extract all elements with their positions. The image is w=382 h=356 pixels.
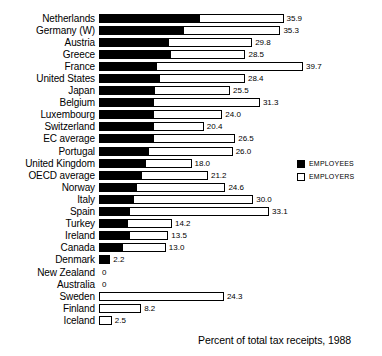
bar-segment-employees [99,243,122,252]
category-label: Finland [0,303,99,314]
bar-segment-employers [168,38,252,47]
bar-value-label: 13.0 [169,243,185,252]
chart-row: France39.7 [0,60,382,72]
chart-row: EC average26.5 [0,133,382,145]
chart-row: Portugal26.0 [0,145,382,157]
bar-area: 35.3 [99,24,382,36]
stacked-bar [99,219,172,228]
chart-row: Sweden24.3 [0,290,382,302]
category-label: Japan [0,85,99,96]
stacked-bar [99,292,224,301]
bar-area: 2.5 [99,314,382,326]
category-label: Australia [0,279,99,290]
bar-value-label: 28.4 [248,74,264,83]
bar-segment-employees [99,207,129,216]
stacked-bar [99,110,222,119]
bar-value-label: 20.4 [207,122,223,131]
chart-row: New Zealand0 [0,266,382,278]
bar-segment-employees [99,26,183,35]
bar-area: 25.5 [99,85,382,97]
stacked-bar [99,122,204,131]
bar-value-label: 39.7 [306,62,322,71]
category-label: Norway [0,182,99,193]
chart-row: Canada13.0 [0,242,382,254]
bar-value-label: 29.8 [255,38,271,47]
bar-segment-employees [99,74,159,83]
bar-segment-employers [99,304,141,313]
bar-value-label: 35.3 [283,26,299,35]
bar-segment-employees [99,86,154,95]
bar-value-label: 24.3 [227,292,243,301]
bar-area: 2.2 [99,254,382,266]
stacked-bar [99,38,252,47]
bar-value-label: 31.3 [263,98,279,107]
category-label: New Zealand [0,267,99,278]
chart-caption: Percent of total tax receipts, 1988 [198,334,351,346]
bar-segment-employers [99,292,224,301]
category-label: Iceland [0,315,99,326]
chart-row: Italy30.0 [0,193,382,205]
category-label: Italy [0,194,99,205]
bar-value-label: 26.5 [238,134,254,143]
bar-segment-employees [99,183,136,192]
bar-segment-employers [133,195,253,204]
legend-label-employers: EMPLOYERS [309,172,354,182]
bar-value-label: 0 [102,268,106,277]
category-label: Canada [0,242,99,253]
chart-row: Turkey14.2 [0,218,382,230]
bar-area: 28.4 [99,72,382,84]
category-label: United Kingdom [0,158,99,169]
stacked-bar [99,255,110,264]
bar-segment-employees [99,14,199,23]
bar-value-label: 35.9 [287,14,303,23]
legend-item-employees: EMPLOYEES [297,159,354,169]
stacked-bar [99,159,192,168]
bar-segment-employers [153,98,260,107]
category-label: OECD average [0,170,99,181]
bar-value-label: 24.0 [225,110,241,119]
bar-segment-employers [141,171,208,180]
bar-value-label: 21.2 [211,171,227,180]
category-label: Greece [0,49,99,60]
stacked-bar [99,98,260,107]
bar-segment-employees [99,147,148,156]
stacked-bar [99,195,253,204]
bar-area: 39.7 [99,60,382,72]
employees-swatch-icon [297,160,305,168]
bar-segment-employees [99,122,153,131]
bar-value-label: 13.5 [171,231,187,240]
stacked-bar [99,171,208,180]
stacked-bar [99,74,245,83]
category-label: Germany (W) [0,25,99,36]
bar-area: 13.5 [99,230,382,242]
chart-row: Luxembourg24.0 [0,109,382,121]
bar-segment-employers [153,134,235,143]
bar-segment-employers [127,219,172,228]
bar-segment-employers [154,86,230,95]
chart-row: Japan25.5 [0,85,382,97]
stacked-bar-chart: Netherlands35.9Germany (W)35.3Austria29.… [0,0,382,356]
bar-area: 8.2 [99,302,382,314]
bar-area: 20.4 [99,121,382,133]
bar-segment-employees [99,195,133,204]
bar-segment-employers [153,110,222,119]
bar-value-label: 2.2 [113,255,124,264]
bar-area: 30.0 [99,193,382,205]
bar-area: 14.2 [99,218,382,230]
bar-segment-employers [159,74,245,83]
employers-swatch-icon [297,173,305,181]
bar-area: 24.0 [99,109,382,121]
bar-segment-employees [99,231,129,240]
bar-segment-employers [145,159,191,168]
stacked-bar [99,86,230,95]
stacked-bar [99,207,269,216]
category-label: United States [0,73,99,84]
stacked-bar [99,26,280,35]
bar-segment-employers [183,26,280,35]
category-label: Portugal [0,146,99,157]
bar-value-label: 8.2 [144,304,155,313]
stacked-bar [99,134,235,143]
stacked-bar [99,50,245,59]
bar-segment-employees [99,38,168,47]
bar-value-label: 14.2 [175,219,191,228]
